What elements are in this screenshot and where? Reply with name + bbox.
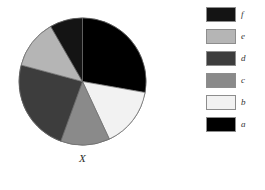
legend-label-f: f [241, 10, 244, 19]
legend-item-a[interactable]: a [206, 116, 262, 132]
x-axis-label: X [0, 152, 165, 164]
legend-label-a: a [241, 120, 246, 129]
legend-item-b[interactable]: b [206, 94, 262, 110]
legend-swatch-b [206, 95, 236, 110]
legend-label-d: d [241, 54, 246, 63]
legend-swatch-c [206, 73, 236, 88]
pie-slices [19, 18, 146, 145]
legend-swatch-d [206, 51, 236, 66]
legend-item-f[interactable]: f [206, 6, 262, 22]
legend-item-c[interactable]: c [206, 72, 262, 88]
legend-item-d[interactable]: d [206, 50, 262, 66]
legend-label-c: c [241, 76, 245, 85]
legend-item-e[interactable]: e [206, 28, 262, 44]
pie-chart [18, 17, 147, 146]
plot-area: X [0, 0, 170, 190]
legend-swatch-a [206, 117, 236, 132]
pie-slice-a[interactable] [83, 18, 147, 93]
legend-label-e: e [241, 32, 245, 41]
legend-swatch-e [206, 29, 236, 44]
legend-swatch-f [206, 7, 236, 22]
legend: f e d c b a [206, 6, 262, 138]
legend-label-b: b [241, 98, 246, 107]
pie-chart-figure: X f e d c b a [0, 0, 265, 190]
